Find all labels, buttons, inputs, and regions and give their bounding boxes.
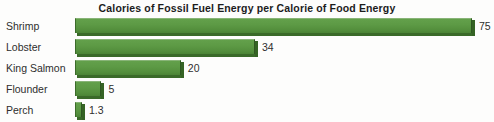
category-label: Lobster (6, 39, 41, 56)
value-label: 1.3 (89, 102, 104, 119)
value-label: 75 (479, 18, 491, 35)
bar[interactable] (75, 81, 101, 96)
bar[interactable] (75, 102, 82, 117)
bar-side-face (82, 104, 85, 120)
bar-row: Flounder 5 (0, 81, 494, 101)
bar-group[interactable] (75, 18, 475, 35)
bar-group[interactable] (75, 39, 258, 56)
value-label: 34 (262, 39, 274, 56)
bar-group[interactable] (75, 81, 104, 98)
category-label: Perch (6, 102, 33, 119)
bar-row: King Salmon 20 (0, 60, 494, 80)
bar[interactable] (75, 18, 472, 33)
bar-group[interactable] (75, 102, 85, 119)
plot-area: Shrimp 75 Lobster 34 King Salmon (0, 18, 494, 122)
bar-side-face (255, 41, 258, 57)
bar-group[interactable] (75, 60, 184, 77)
bar[interactable] (75, 60, 181, 75)
bar-row: Shrimp 75 (0, 18, 494, 38)
bar-side-face (101, 83, 104, 99)
category-label: King Salmon (6, 60, 66, 77)
chart-title: Calories of Fossil Fuel Energy per Calor… (0, 2, 494, 14)
bar-row: Lobster 34 (0, 39, 494, 59)
bar-row: Perch 1.3 (0, 102, 494, 122)
bar-chart: Calories of Fossil Fuel Energy per Calor… (0, 0, 494, 122)
bar-bottom-face (77, 54, 257, 57)
bar-bottom-face (77, 33, 474, 36)
category-label: Flounder (6, 81, 47, 98)
category-label: Shrimp (6, 18, 39, 35)
value-label: 20 (188, 60, 200, 77)
bar[interactable] (75, 39, 255, 54)
bar-side-face (181, 62, 184, 78)
bar-side-face (472, 20, 475, 36)
value-label: 5 (108, 81, 114, 98)
bar-bottom-face (77, 75, 183, 78)
bar-bottom-face (77, 96, 103, 99)
